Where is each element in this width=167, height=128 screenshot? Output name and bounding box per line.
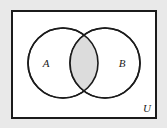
universal-set-label: U: [143, 102, 152, 114]
venn-diagram-figure: A B U: [0, 0, 167, 128]
set-b-label: B: [119, 57, 126, 69]
venn-diagram-canvas: A B U: [0, 0, 167, 128]
set-a-label: A: [42, 57, 50, 69]
